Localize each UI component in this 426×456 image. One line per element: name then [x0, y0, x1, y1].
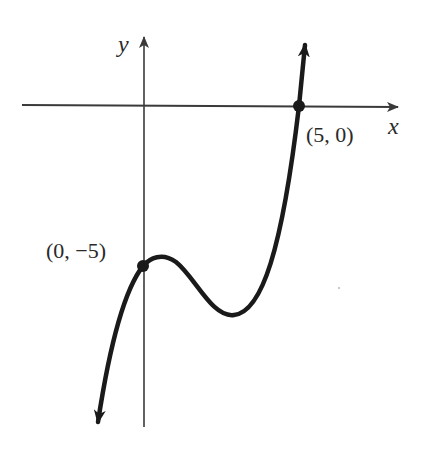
x-axis-label: x [387, 113, 399, 139]
y-intercept-label: (0, −5) [46, 238, 106, 263]
x-intercept-label: (5, 0) [306, 122, 354, 147]
y-intercept-point [137, 260, 149, 272]
x-intercept-point [293, 100, 305, 112]
cubic-curve [143, 45, 305, 315]
curve-left-end [98, 266, 143, 422]
y-axis-label: y [116, 31, 129, 57]
cubic-function-graph: y x (5, 0) (0, −5) [0, 0, 426, 456]
scan-speck [338, 287, 340, 289]
x-axis [22, 105, 398, 107]
